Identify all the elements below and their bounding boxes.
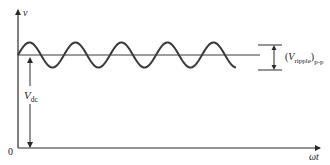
ripple-voltage-diagram: v ωt 0 Vdc (Vripple)p-p	[0, 0, 330, 165]
ripple-arrowhead-top	[272, 45, 277, 50]
vdc-arrowhead-bottom	[27, 142, 33, 148]
y-axis-label: v	[23, 7, 28, 18]
vdc-arrowhead-top	[27, 57, 33, 63]
ripple-arrowhead-bottom	[272, 65, 277, 70]
origin-label: 0	[8, 146, 13, 157]
x-axis-label: ωt	[309, 151, 319, 162]
ripple-label: (Vripple)p-p	[285, 51, 324, 66]
